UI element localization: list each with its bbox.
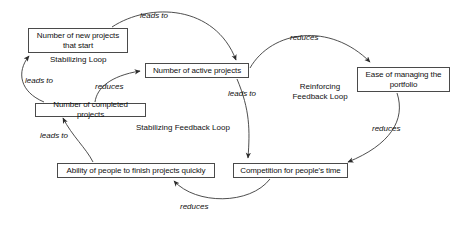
edge-label-active-to-competition: leads to [228, 89, 256, 98]
causal-loop-diagram: Number of new projects that start Number… [0, 0, 459, 234]
edge-label-competition-to-ability: reduces [180, 202, 208, 211]
node-active-projects[interactable]: Number of active projects [145, 63, 249, 78]
edge-label-ability-to-completed: leads to [40, 131, 68, 140]
edge-new-to-active [112, 12, 236, 60]
label-stabilizing-feedback-loop: Stabilizing Feedback Loop [136, 123, 230, 133]
node-competition-for-time[interactable]: Competition for people's time [233, 163, 348, 178]
node-completed-projects[interactable]: Number of completed projects [35, 103, 146, 117]
edge-label-new-to-active: leads to [140, 11, 168, 20]
label-stabilizing-loop: Stabilizing Loop [50, 55, 106, 65]
node-ability-finish-projects[interactable]: Ability of people to finish projects qui… [57, 163, 215, 178]
node-competition-for-time-label: Competition for people's time [240, 166, 340, 176]
node-ease-managing-portfolio-label: Ease of managing the portfolio [361, 70, 446, 90]
edge-competition-to-ability [174, 179, 270, 199]
edge-label-active-to-ease: reduces [290, 33, 318, 42]
node-ease-managing-portfolio[interactable]: Ease of managing the portfolio [357, 67, 450, 92]
edge-ability-to-completed [63, 118, 93, 162]
node-ability-finish-projects-label: Ability of people to finish projects qui… [67, 166, 206, 176]
edge-label-completed-to-active: reduces [95, 82, 123, 91]
edge-label-ease-to-competition: reduces [372, 124, 400, 133]
label-reinforcing-feedback-loop: Reinforcing Feedback Loop [285, 82, 355, 102]
node-completed-projects-label: Number of completed projects [39, 100, 142, 120]
node-new-projects[interactable]: Number of new projects that start [28, 28, 128, 53]
edge-label-completed-to-new: leads to [25, 76, 53, 85]
node-active-projects-label: Number of active projects [153, 66, 241, 76]
node-new-projects-label: Number of new projects that start [32, 31, 124, 51]
